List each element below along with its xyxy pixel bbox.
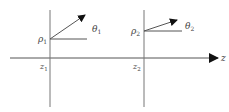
cylindrical-coordinates-diagram: z ρ1 θ1 z1 ρ2 θ2 z2 bbox=[0, 0, 229, 112]
rho-1-label: ρ1 bbox=[37, 34, 47, 45]
theta-2-label: θ2 bbox=[185, 21, 194, 32]
rho-2-label: ρ2 bbox=[130, 26, 140, 37]
z-2-label: z2 bbox=[132, 62, 141, 72]
z-axis-label: z bbox=[220, 53, 226, 63]
plane-1-arrow-icon bbox=[50, 15, 85, 39]
z-1-label: z1 bbox=[39, 62, 48, 72]
theta-1-label: θ1 bbox=[92, 24, 101, 35]
plane-2-arrow-icon bbox=[144, 20, 177, 31]
